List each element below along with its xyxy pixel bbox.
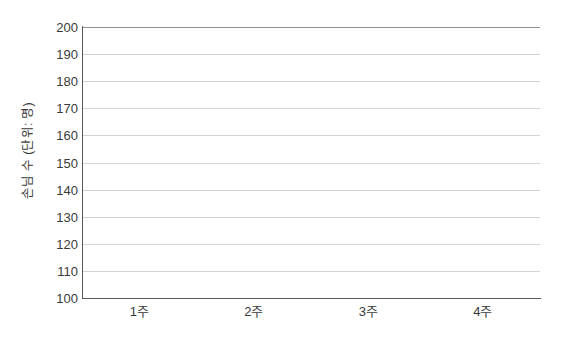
gridline [82, 81, 540, 82]
y-axis-tick-label: 140 [56, 183, 78, 196]
y-axis-tick-label: 190 [56, 48, 78, 61]
gridline [82, 271, 540, 272]
x-axis-tick-label: 4주 [473, 304, 492, 320]
gridline [82, 217, 540, 218]
y-axis-tick-label: 160 [56, 129, 78, 142]
gridline [82, 108, 540, 109]
y-axis-tick-label: 150 [56, 156, 78, 169]
x-axis-tick-label: 3주 [359, 304, 378, 320]
x-axis-tick-labels: 1주2주3주4주 [82, 304, 540, 328]
y-axis-tick-label: 110 [57, 264, 78, 277]
y-axis-tick-label: 180 [56, 75, 78, 88]
y-axis-tick-label: 100 [56, 292, 78, 305]
y-axis-title: 손님 수 (단위: 명) [12, 0, 40, 300]
y-axis-tick-label: 130 [56, 210, 78, 223]
y-axis-tick-label: 170 [56, 102, 78, 115]
x-axis-tick-label: 2주 [244, 304, 263, 320]
gridline [82, 163, 540, 164]
gridline [82, 244, 540, 245]
y-axis-tick-label: 120 [56, 237, 78, 250]
gridline [82, 190, 540, 191]
x-axis-line [82, 298, 541, 299]
plot-area [82, 27, 540, 298]
gridline [82, 27, 540, 28]
y-axis-title-text: 손님 수 (단위: 명) [17, 102, 36, 199]
y-axis-tick-label: 200 [56, 21, 78, 34]
gridline [82, 54, 540, 55]
x-axis-tick-label: 1주 [130, 304, 149, 320]
y-axis-line [82, 26, 83, 299]
chart-canvas: 손님 수 (단위: 명) 100110120130140150160170180… [0, 0, 562, 340]
gridline [82, 135, 540, 136]
y-axis-tick-labels: 100110120130140150160170180190200 [40, 27, 78, 298]
